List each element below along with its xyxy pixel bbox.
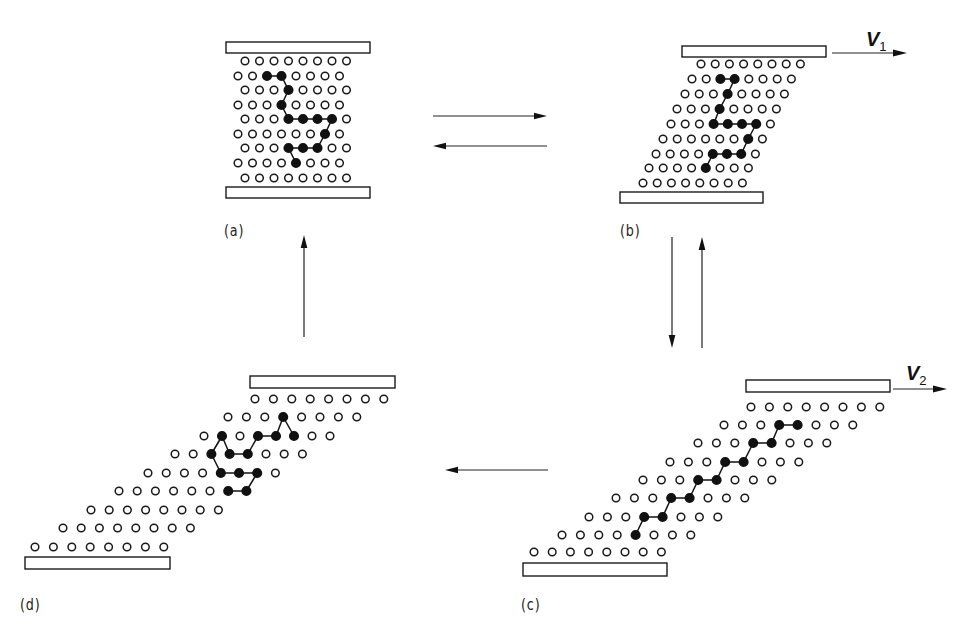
lattice-atom <box>133 487 141 495</box>
lattice-atom <box>263 159 271 167</box>
chain-atom <box>752 120 761 129</box>
lattice-atom <box>777 458 785 466</box>
lattice-atom <box>674 164 682 172</box>
lattice-atom <box>673 135 681 143</box>
lattice-atom <box>189 450 197 458</box>
lattice-atom <box>353 413 361 421</box>
lattice-atom <box>612 494 620 502</box>
lattice-atom <box>181 469 189 477</box>
lattice-atom <box>731 439 739 447</box>
lattice-atom <box>649 494 657 502</box>
lattice-atom <box>681 150 689 158</box>
lattice-atom <box>96 524 104 532</box>
lattice-atom <box>241 86 249 94</box>
chain-atom <box>290 432 299 441</box>
chain-atom <box>279 413 288 422</box>
lattice-atom <box>758 105 766 113</box>
lattice-atom <box>682 179 690 187</box>
lattice-atom <box>234 130 242 138</box>
lattice-atom <box>759 75 767 83</box>
lattice-atom <box>314 174 322 182</box>
lattice-atom <box>59 524 67 532</box>
lattice-atom <box>144 469 152 477</box>
lattice-atom <box>797 60 805 68</box>
lattice-atom <box>142 506 150 514</box>
lattice-atom <box>292 130 300 138</box>
lattice-atom <box>585 513 593 521</box>
lattice-atom <box>380 395 388 403</box>
lattice-atom <box>802 403 810 411</box>
lattice-atom <box>704 494 712 502</box>
lattice-atom <box>150 524 158 532</box>
lattice-atom <box>768 476 776 484</box>
lattice-atom <box>234 159 242 167</box>
lattice-atom <box>669 531 677 539</box>
chain-atom <box>715 105 724 114</box>
lattice-atom <box>336 130 344 138</box>
lattice-atom <box>343 174 351 182</box>
chain-atom <box>631 531 640 540</box>
chain-atom <box>225 450 234 459</box>
chain-atom <box>724 120 733 129</box>
lattice-atom <box>710 179 718 187</box>
lattice-atom <box>262 450 270 458</box>
lattice-atom <box>306 395 314 403</box>
transition-arrows <box>301 113 706 474</box>
chain-atom <box>739 458 748 467</box>
chain-atom <box>299 144 308 153</box>
lattice-atom <box>307 101 315 109</box>
lattice-atom <box>784 403 792 411</box>
chain-atom <box>775 421 784 430</box>
d-to-a-arrow <box>301 235 308 337</box>
panel-label-b: (b) <box>620 222 641 240</box>
velocity-subscript: 2 <box>919 373 926 388</box>
lattice-atom <box>243 413 251 421</box>
c-to-b-arrow <box>699 237 706 348</box>
lattice-atom <box>631 494 639 502</box>
bottom-plate <box>620 192 763 203</box>
lattice-atom <box>744 105 752 113</box>
lattice-atom <box>613 531 621 539</box>
lattice-atom <box>666 150 674 158</box>
lattice-atom <box>187 524 195 532</box>
lattice-atom <box>697 60 705 68</box>
lattice-atom <box>256 57 264 65</box>
lattice-atom <box>730 135 738 143</box>
chain-atom <box>313 115 322 124</box>
lattice-atom <box>328 57 336 65</box>
velocity-label-v2: V2 <box>906 362 927 388</box>
lattice-atom <box>788 75 796 83</box>
chain-atom <box>263 72 272 81</box>
lattice-atom <box>577 531 585 539</box>
panel-label-d: (d) <box>20 596 41 614</box>
lattice-atom <box>703 458 711 466</box>
lattice-atom <box>299 86 307 94</box>
lattice-atom <box>263 130 271 138</box>
lattice-atom <box>621 548 629 556</box>
lattice-atom <box>123 543 131 551</box>
lattice-atom <box>639 179 647 187</box>
chain-atom <box>730 75 739 84</box>
lattice-atom <box>821 403 829 411</box>
lattice-atom <box>199 469 207 477</box>
lattice-atom <box>858 403 866 411</box>
lattice-atom <box>773 105 781 113</box>
lattice-atom <box>702 135 710 143</box>
chain-atom <box>709 120 718 129</box>
lattice-atom <box>178 506 186 514</box>
lattice-atom <box>740 60 748 68</box>
lattice-atom <box>249 101 257 109</box>
lattice-atom <box>335 413 343 421</box>
lattice-atom <box>241 174 249 182</box>
bottom-plate <box>226 187 370 198</box>
top-plate <box>226 42 370 53</box>
chain-atom <box>721 458 730 467</box>
chain-atom <box>244 450 253 459</box>
lattice-atom <box>234 72 242 80</box>
velocity-symbol: V <box>866 28 879 50</box>
velocity-symbol: V <box>906 362 919 384</box>
chain-atom <box>218 432 227 441</box>
lattice-atom <box>688 75 696 83</box>
lattice-atom <box>696 513 704 521</box>
chain-atom <box>793 421 802 430</box>
